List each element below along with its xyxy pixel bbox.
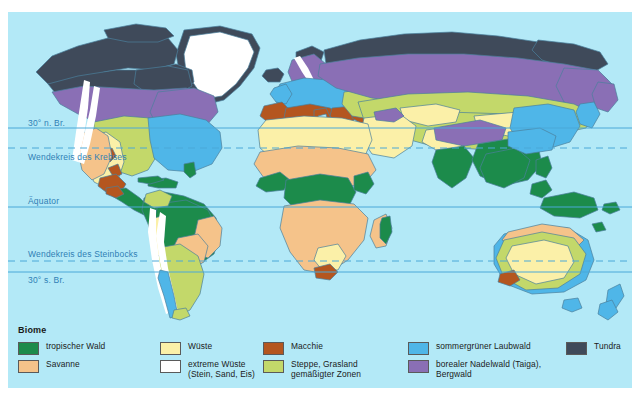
philippines-tropical — [536, 156, 552, 178]
legend-swatch-borealer-nadelwald — [408, 360, 429, 373]
florida-tropical — [184, 162, 196, 178]
world-map-svg — [8, 12, 632, 324]
legend-label-tundra: Tundra — [594, 341, 621, 351]
legend-title: Biome — [18, 325, 47, 335]
asia-tropical-india — [432, 146, 474, 188]
legend-label-wueste: Wüste — [188, 341, 212, 351]
world-map: 30° n. Br. Wendekreis des Krebses Äquato… — [8, 12, 632, 324]
latitude-label-equator: Äquator — [28, 196, 59, 207]
au-tasmania-deciduous — [562, 298, 582, 312]
legend-label-macchie: Macchie — [291, 341, 323, 351]
asia-tropical-indochina — [480, 148, 530, 188]
png-tropical — [540, 192, 598, 218]
legend-swatch-sommergruener-laubwald — [408, 342, 429, 355]
pacific-islands-2 — [592, 222, 606, 232]
legend-swatch-macchie — [263, 342, 284, 355]
legend-item-sommergruener-laubwald: sommergrüner Laubwald — [408, 341, 531, 355]
legend-item-wueste: Wüste — [160, 341, 212, 355]
legend-item-borealer-nadelwald: borealer Nadelwald (Taiga), Bergwald — [408, 359, 541, 379]
legend-swatch-extreme-wueste — [160, 360, 181, 373]
legend-label-savanne: Savanne — [46, 359, 80, 369]
legend-item-steppe: Steppe, Grasland gemäßigter Zonen — [263, 359, 361, 379]
legend-item-savanne: Savanne — [18, 359, 80, 373]
legend-swatch-tundra — [566, 342, 587, 355]
legend-label-sommergruener-laubwald: sommergrüner Laubwald — [436, 341, 531, 351]
map-landmasses — [36, 24, 624, 320]
legend-item-tundra: Tundra — [566, 341, 621, 355]
sulawesi-tropical — [530, 180, 552, 198]
na-arctic-islands — [104, 24, 174, 42]
legend-swatch-savanne — [18, 360, 39, 373]
iceland-tundra — [262, 68, 284, 82]
latitude-label-tropic-capricorn: Wendekreis des Steinbocks — [28, 249, 138, 260]
legend-item-extreme-wueste: extreme Wüste (Stein, Sand, Eis) — [160, 359, 255, 379]
biome-map-figure: 30° n. Br. Wendekreis des Krebses Äquato… — [0, 0, 642, 394]
na-deciduous — [148, 114, 222, 172]
map-panel: 30° n. Br. Wendekreis des Krebses Äquato… — [8, 12, 632, 388]
legend-label-borealer-nadelwald: borealer Nadelwald (Taiga), Bergwald — [436, 359, 541, 379]
legend-item-tropischer-wald: tropischer Wald — [18, 341, 105, 355]
legend: Biome tropischer Wald Savanne Wüste extr… — [8, 324, 632, 388]
legend-swatch-steppe — [263, 360, 284, 373]
legend-swatch-wueste — [160, 342, 181, 355]
legend-item-macchie: Macchie — [263, 341, 323, 355]
pacific-islands-1 — [602, 202, 620, 214]
legend-label-tropischer-wald: tropischer Wald — [46, 341, 105, 351]
legend-label-steppe: Steppe, Grasland gemäßigter Zonen — [291, 359, 361, 379]
legend-swatch-tropischer-wald — [18, 342, 39, 355]
latitude-label-30n: 30° n. Br. — [28, 118, 65, 129]
latitude-label-tropic-cancer: Wendekreis des Krebses — [28, 152, 127, 163]
legend-label-extreme-wueste: extreme Wüste (Stein, Sand, Eis) — [188, 359, 255, 379]
af-madagascar-tropical — [380, 216, 392, 244]
latitude-label-30s: 30° s. Br. — [28, 275, 65, 286]
